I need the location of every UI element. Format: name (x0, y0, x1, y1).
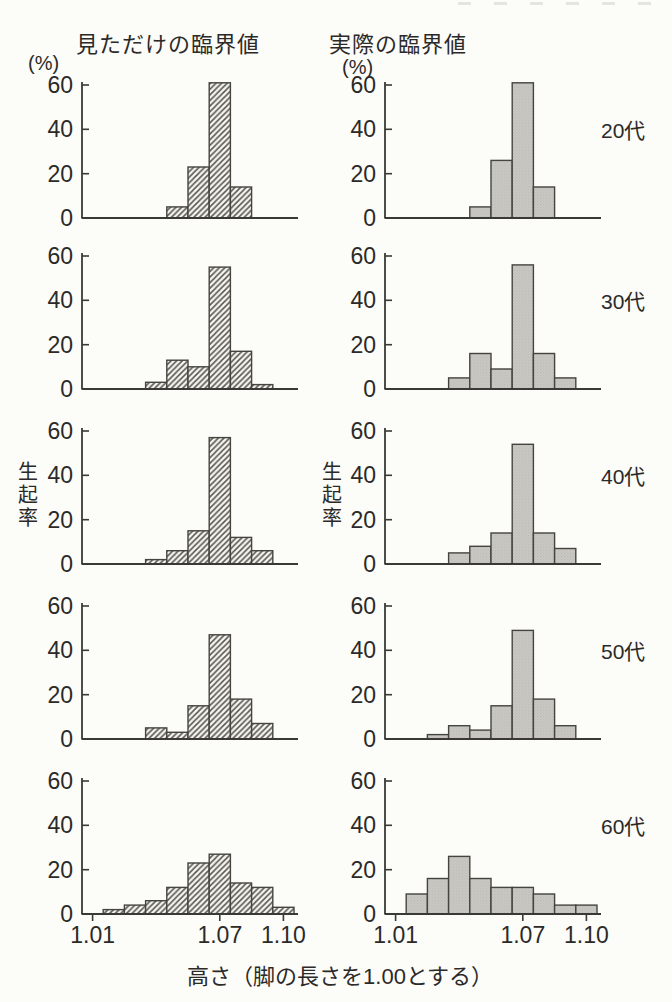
histogram-30s-perceived: 0204060 (42, 249, 314, 429)
histogram-bar (576, 905, 597, 914)
histogram-bar (209, 635, 230, 739)
y-tick-label: 60 (350, 768, 376, 794)
y-tick-label: 20 (47, 682, 73, 708)
histogram-bar (209, 83, 230, 218)
histogram-bar (533, 894, 554, 914)
histogram-bar (427, 879, 448, 915)
histogram-bar (167, 732, 188, 739)
y-tick-label: 20 (350, 507, 376, 533)
histogram-50s-actual: 0204060 (345, 599, 617, 779)
histogram-bar (188, 863, 209, 914)
y-tick-label: 40 (47, 287, 73, 313)
y-tick-label: 20 (350, 857, 376, 883)
histogram-bar (188, 367, 209, 389)
y-tick-label: 0 (363, 376, 376, 402)
y-tick-label: 0 (363, 726, 376, 752)
histogram-bar (512, 83, 533, 218)
y-tick-label: 0 (60, 376, 73, 402)
histogram-bar (188, 167, 209, 218)
histogram-bar (533, 533, 554, 564)
y-tick-label: 0 (363, 551, 376, 577)
histogram-bar (167, 887, 188, 914)
column-header-perceived: 見ただけの臨界値 (62, 26, 274, 58)
histogram-bar (167, 207, 188, 218)
x-axis-caption: 高さ（脚の長さを1.00とする） (100, 958, 580, 990)
histogram-60s-actual: 02040601.011.071.10 (345, 774, 617, 954)
histogram-bar (273, 907, 294, 914)
y-tick-label: 40 (350, 637, 376, 663)
y-axis-label-left: 生起率 (12, 461, 41, 530)
histogram-60s-perceived: 02040601.011.071.10 (42, 774, 314, 954)
histogram-bar (146, 901, 167, 914)
y-tick-label: 60 (47, 593, 73, 619)
y-tick-label: 60 (350, 418, 376, 444)
histogram-bar (533, 699, 554, 739)
y-tick-label: 60 (350, 72, 376, 98)
histogram-bar (188, 706, 209, 739)
y-tick-label: 20 (47, 332, 73, 358)
histogram-bar (209, 438, 230, 564)
y-tick-label: 40 (47, 812, 73, 838)
y-axis-label-right: 生起率 (316, 461, 345, 530)
row-label-50s: 50代 (601, 635, 645, 665)
y-tick-label: 20 (47, 161, 73, 187)
histogram-40s-perceived: 0204060 (42, 424, 314, 604)
histogram-bar (555, 378, 576, 389)
histogram-bar (555, 905, 576, 914)
histogram-bar (449, 856, 470, 914)
x-tick-label: 1.01 (373, 922, 418, 948)
histogram-bar (491, 369, 512, 389)
histogram-bar (491, 160, 512, 218)
histogram-bar (512, 887, 533, 914)
y-tick-label: 40 (47, 637, 73, 663)
histogram-bar (209, 267, 230, 389)
page-edge-artifact (458, 2, 664, 5)
histogram-bar (533, 354, 554, 390)
y-tick-label: 20 (350, 682, 376, 708)
y-tick-label: 60 (350, 243, 376, 269)
histogram-bar (209, 854, 230, 914)
x-tick-label: 1.10 (261, 922, 306, 948)
y-tick-label: 20 (47, 857, 73, 883)
histogram-bar (230, 883, 251, 914)
y-tick-label: 60 (47, 418, 73, 444)
x-tick-label: 1.01 (70, 922, 115, 948)
y-tick-label: 0 (363, 205, 376, 231)
histogram-20s-perceived: 0204060 (42, 78, 314, 258)
histogram-bar (470, 546, 491, 564)
histogram-bar (146, 728, 167, 739)
y-tick-label: 40 (350, 812, 376, 838)
histogram-bar (491, 533, 512, 564)
y-tick-label: 0 (60, 551, 73, 577)
histogram-bar (470, 354, 491, 390)
histogram-bar (167, 551, 188, 564)
y-tick-label: 20 (350, 161, 376, 187)
row-label-40s: 40代 (601, 460, 645, 490)
histogram-bar (124, 905, 145, 914)
row-label-20s: 20代 (601, 114, 645, 144)
histogram-bar (470, 730, 491, 739)
histogram-bar (449, 553, 470, 564)
histogram-20s-actual: 0204060 (345, 78, 617, 258)
histogram-bar (512, 630, 533, 739)
x-tick-label: 1.07 (197, 922, 242, 948)
histogram-bar (230, 699, 251, 739)
y-tick-label: 40 (350, 287, 376, 313)
y-tick-label: 40 (47, 116, 73, 142)
y-tick-label: 20 (350, 332, 376, 358)
histogram-bar (188, 531, 209, 564)
y-tick-label: 60 (47, 768, 73, 794)
histogram-bar (512, 265, 533, 389)
histogram-50s-perceived: 0204060 (42, 599, 314, 779)
histogram-30s-actual: 0204060 (345, 249, 617, 429)
histogram-bar (470, 879, 491, 915)
histogram-bar (167, 360, 188, 389)
y-tick-label: 40 (350, 462, 376, 488)
column-header-actual: 実際の臨界値 (292, 26, 504, 58)
x-tick-label: 1.10 (564, 922, 609, 948)
y-tick-label: 60 (47, 243, 73, 269)
x-tick-label: 1.07 (500, 922, 545, 948)
histogram-bar (555, 549, 576, 565)
histogram-bar (252, 724, 273, 740)
histogram-bar (449, 726, 470, 739)
